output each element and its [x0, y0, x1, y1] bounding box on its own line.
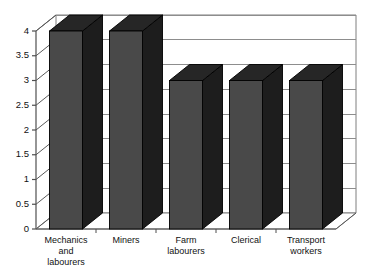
y-tick-label: 3	[24, 74, 29, 85]
x-tick-label: Clerical	[231, 235, 261, 245]
y-tick-labels: 43.532.521.510.50	[16, 25, 29, 234]
x-tick-marks	[96, 229, 276, 233]
chart-canvas: 43.532.521.510.50 MechanicsandlabourersM…	[0, 0, 373, 275]
x-tick-labels: MechanicsandlabourersMinersFarmlabourers…	[44, 235, 325, 267]
y-tick-label: 2	[24, 124, 29, 135]
y-tick-label: 3.5	[16, 49, 29, 60]
bar-column	[230, 65, 283, 230]
bar-chart: 43.532.521.510.50 MechanicsandlabourersM…	[0, 0, 373, 275]
x-tick-label: Mechanicsandlabourers	[44, 235, 88, 267]
bar-column	[170, 65, 223, 230]
y-tick-label: 4	[24, 25, 29, 36]
y-tick-label: 0.5	[16, 198, 29, 209]
x-tick-label: Farmlabourers	[167, 235, 205, 256]
y-tick-label: 2.5	[16, 99, 29, 110]
bar-column	[110, 15, 163, 229]
x-tick-label: Transportworkers	[287, 235, 326, 256]
bar-column	[50, 15, 103, 229]
x-tick-label: Miners	[112, 235, 140, 245]
y-tick-label: 1.5	[16, 148, 29, 159]
bar-column	[290, 65, 343, 230]
y-tick-label: 0	[24, 223, 29, 234]
y-tick-label: 1	[24, 173, 29, 184]
